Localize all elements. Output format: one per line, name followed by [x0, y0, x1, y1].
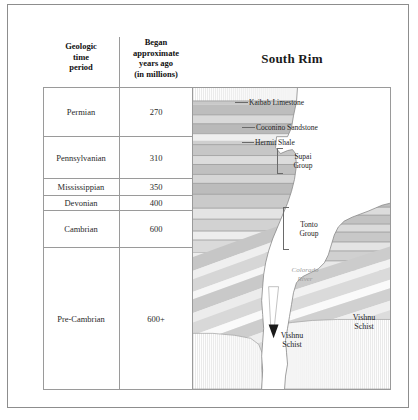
header-line: approximate [119, 48, 193, 59]
label-line: Schist [343, 322, 385, 331]
cell-years: 600+ [119, 248, 193, 389]
label-colorado-river: Colorado River [283, 266, 327, 284]
figure-frame: Geologic time period Began approximate y… [7, 4, 409, 408]
bracket-tonto-top [283, 207, 289, 208]
label-coconino-sandstone: Coconino Sandstone [256, 123, 318, 132]
leader-line-hermit [242, 142, 254, 143]
cell-period: Permian [43, 88, 119, 136]
column-header-began: Began approximate years ago (in millions… [119, 37, 193, 79]
label-line: Tonto [287, 220, 331, 229]
bracket-supai-top [277, 148, 283, 149]
table-row: Devonian 400 [43, 195, 193, 210]
geologic-cross-section-figure: Geologic time period Began approximate y… [43, 23, 391, 390]
label-supai-group: Supai Group [281, 152, 325, 170]
vishnu-schist-left [193, 333, 263, 389]
cell-years: 270 [119, 88, 193, 136]
table-row: Pre-Cambrian 600+ [43, 247, 193, 390]
label-vishnu-schist-left: Vishnu Schist [271, 331, 313, 349]
column-header-period: Geologic time period [43, 41, 119, 73]
header-line: period [43, 62, 119, 73]
cell-years: 310 [119, 137, 193, 178]
table-row: Mississippian 350 [43, 178, 193, 195]
cell-period: Mississippian [43, 179, 119, 195]
label-line: Colorado [283, 266, 327, 275]
label-hermit-shale: Hermit Shale [255, 138, 295, 147]
cell-years: 350 [119, 179, 193, 195]
leader-line-coconino [242, 127, 255, 128]
label-line: Schist [271, 340, 313, 349]
label-line: Group [281, 161, 325, 170]
bracket-tonto-vertical [283, 207, 284, 250]
label-line: Vishnu [343, 313, 385, 322]
label-line: Vishnu [271, 331, 313, 340]
cell-period: Cambrian [43, 211, 119, 247]
table-row: Pennsylvanian 310 [43, 136, 193, 178]
label-kaibab-limestone: Kaibab Limestone [249, 98, 304, 107]
geologic-time-table: Geologic time period Began approximate y… [43, 23, 193, 390]
label-line: River [283, 275, 327, 284]
header-line: Geologic [43, 41, 119, 52]
bracket-supai-bottom [277, 173, 283, 174]
cell-years: 400 [119, 196, 193, 210]
bracket-supai-vertical [277, 148, 278, 174]
leader-line-kaibab [235, 102, 248, 103]
header-line: Began [119, 37, 193, 48]
table-row: Permian 270 [43, 87, 193, 136]
header-line: time [43, 52, 119, 63]
label-vishnu-schist-right: Vishnu Schist [343, 313, 385, 331]
table-row: Cambrian 600 [43, 210, 193, 247]
bracket-tonto-bottom [283, 249, 289, 250]
label-line: Supai [281, 152, 325, 161]
header-line: (in millions) [119, 69, 193, 80]
cell-period: Pennsylvanian [43, 137, 119, 178]
cell-years: 600 [119, 211, 193, 247]
label-line: Group [287, 229, 331, 238]
label-tonto-group: Tonto Group [287, 220, 331, 238]
header-line: years ago [119, 58, 193, 69]
cell-period: Devonian [43, 196, 119, 210]
cell-period: Pre-Cambrian [43, 248, 119, 389]
diagram-title: South Rim [193, 51, 391, 67]
